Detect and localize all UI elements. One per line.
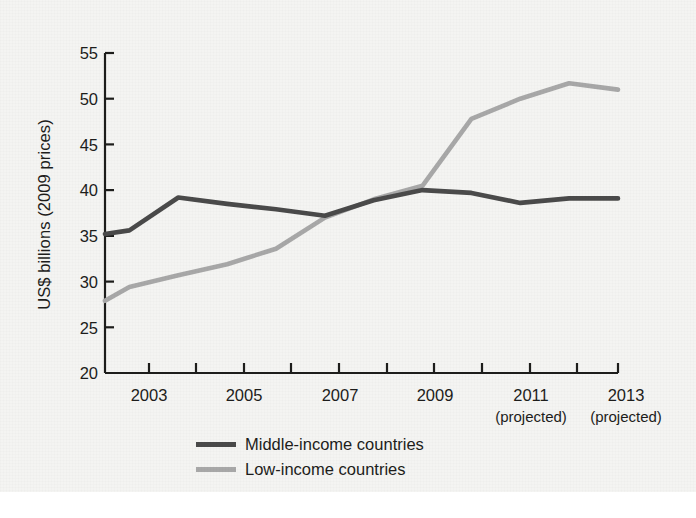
figure-container: US$ billions (2009 prices) 55 50 45 40 3… xyxy=(0,0,696,518)
y-axis-ticks xyxy=(105,53,114,327)
axis-lines xyxy=(105,53,618,373)
legend-item-middle-income: Middle-income countries xyxy=(196,432,424,457)
series-line-low-income xyxy=(105,83,618,301)
legend-label-middle-income: Middle-income countries xyxy=(245,435,424,454)
legend-swatch-middle-income xyxy=(196,442,236,447)
legend-label-low-income: Low-income countries xyxy=(245,460,406,479)
chart-legend: Middle-income countries Low-income count… xyxy=(196,432,424,482)
x-axis-ticks xyxy=(149,363,618,373)
line-chart: US$ billions (2009 prices) 55 50 45 40 3… xyxy=(0,0,696,518)
legend-item-low-income: Low-income countries xyxy=(196,457,424,482)
legend-swatch-low-income xyxy=(196,467,236,472)
series-line-middle-income xyxy=(105,190,618,234)
